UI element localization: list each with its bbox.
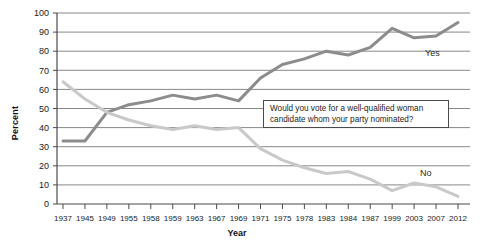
x-axis-ticks [63,204,458,209]
x-tick-label: 1963 [186,214,204,223]
series-line-no [63,82,458,197]
x-tick-label: 1978 [295,214,313,223]
y-tick-label: 0 [44,199,49,209]
y-axis-title-text: Percent [10,106,20,140]
question-callout: Would you vote for a well-qualified woma… [263,100,449,128]
y-tick-label: 60 [39,85,49,95]
callout-line-1: Would you vote for a well-qualified woma… [270,104,443,115]
y-tick-label: 70 [39,66,49,76]
x-tick-label: 1958 [142,214,160,223]
x-tick-label: 1937 [54,214,72,223]
x-tick-label: 1984 [339,214,357,223]
callout-line-2: candidate whom your party nominated? [270,115,443,126]
x-tick-label: 1971 [252,214,270,223]
x-tick-label: 1967 [208,214,226,223]
y-tick-label: 80 [39,46,49,56]
x-tick-label: 2007 [427,214,445,223]
x-tick-label: 1969 [230,214,248,223]
series-label-no: No [420,168,432,178]
gridlines [57,13,470,185]
x-tick-label: 1987 [361,214,379,223]
x-axis-title-text: Year [227,228,246,238]
y-tick-label: 50 [39,104,49,114]
line-chart: 0102030405060708090100 19371945194919551… [0,0,482,248]
x-tick-label: 1999 [383,214,401,223]
x-tick-label: 2003 [405,214,423,223]
x-axis-tick-labels: 1937194519491955195819591963196719691971… [54,214,467,223]
y-axis-title: Percent [6,88,24,158]
x-tick-label: 2012 [449,214,467,223]
series-label-yes: Yes [425,48,440,58]
y-tick-label: 10 [39,180,49,190]
x-tick-label: 1959 [164,214,182,223]
y-tick-label: 100 [34,8,49,18]
y-tick-label: 20 [39,161,49,171]
y-tick-label: 40 [39,123,49,133]
x-tick-label: 1983 [317,214,335,223]
y-tick-label: 30 [39,142,49,152]
y-tick-label: 90 [39,27,49,37]
x-tick-label: 1949 [98,214,116,223]
x-tick-label: 1975 [274,214,292,223]
x-axis-title: Year [0,228,482,238]
x-tick-label: 1945 [76,214,94,223]
y-axis-tick-labels: 0102030405060708090100 [34,8,49,209]
x-tick-label: 1955 [120,214,138,223]
